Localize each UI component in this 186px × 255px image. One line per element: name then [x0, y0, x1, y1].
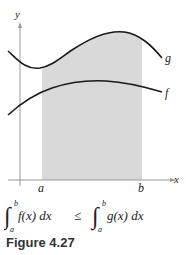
integral-inequality: ∫ b a f(x) dx ≤ ∫ b a g(x) dx	[4, 198, 184, 238]
figure-caption: Figure 4.27	[6, 235, 75, 250]
right-integrand: g(x) dx	[107, 208, 144, 223]
upper-limit-left: b	[14, 199, 18, 208]
y-axis-label: y	[14, 8, 20, 20]
lower-limit-left: a	[10, 225, 14, 234]
relation-symbol: ≤	[74, 208, 81, 223]
upper-limit-right: b	[102, 199, 106, 208]
lower-limit-right: a	[98, 225, 102, 234]
x-axis-label: x	[173, 173, 179, 185]
shaded-region	[42, 31, 142, 180]
curve-g-label: g	[165, 51, 171, 65]
y-axis-arrow-icon	[18, 22, 22, 28]
bound-b-label: b	[138, 181, 144, 195]
left-integrand: f(x) dx	[18, 208, 52, 223]
bound-a-label: a	[38, 181, 44, 195]
curve-f-label: f	[165, 86, 170, 100]
